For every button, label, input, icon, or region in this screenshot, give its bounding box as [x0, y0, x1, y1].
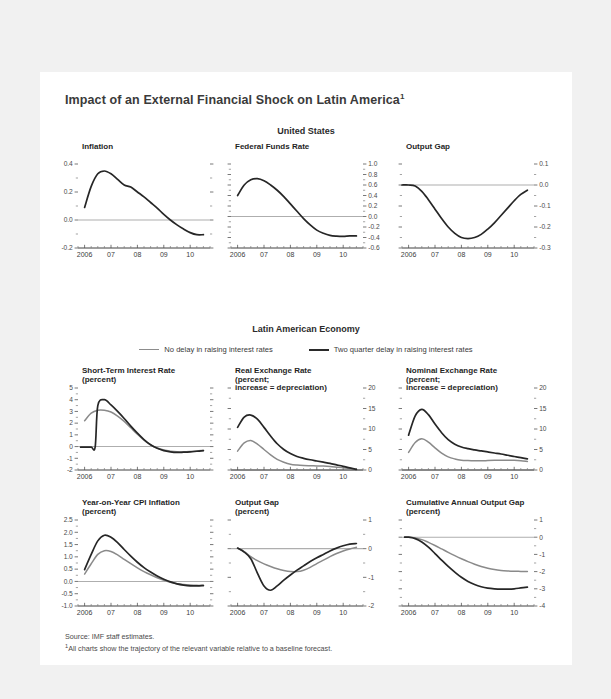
x-tick-label: 09	[484, 473, 492, 480]
y-tick-label: -1.0	[61, 602, 73, 609]
footnote-1: 1All charts show the trajectory of the r…	[65, 642, 332, 655]
x-tick-label: 09	[313, 473, 321, 480]
series-line	[85, 535, 204, 586]
y-tick-label: 1	[69, 431, 73, 438]
x-tick-label: 09	[484, 609, 492, 616]
y-tick-label: 20	[368, 384, 376, 391]
series-line	[405, 537, 528, 589]
chart-us-inflation: -0.20.00.20.4200607080910Inflation	[54, 140, 216, 264]
series-line	[402, 185, 527, 239]
x-tick-label: 07	[107, 609, 115, 616]
y-tick-label: 0	[539, 466, 543, 473]
y-tick-label: 1.0	[368, 160, 377, 167]
y-tick-label: 3	[69, 408, 73, 415]
x-tick-label: 09	[160, 473, 168, 480]
y-tick-label: 4	[69, 396, 73, 403]
x-tick-label: 2006	[401, 473, 417, 480]
series-line	[238, 179, 357, 237]
x-tick-label: 2006	[401, 251, 417, 258]
x-tick-label: 08	[458, 473, 466, 480]
x-tick-label: 10	[339, 251, 347, 258]
x-tick-label: 07	[260, 609, 268, 616]
x-tick-label: 07	[260, 251, 268, 258]
figure-card: Impact of an External Financial Shock on…	[40, 72, 572, 665]
y-tick-label: -0.4	[368, 234, 380, 241]
x-tick-label: 2006	[77, 251, 93, 258]
y-tick-label: -0.2	[61, 244, 73, 251]
chart-subtitle: (percent)	[406, 507, 441, 516]
y-tick-label: -0.5	[61, 590, 73, 597]
y-tick-label: 5	[69, 384, 73, 391]
x-tick-label: 08	[458, 609, 466, 616]
chart-subtitle: increase = depreciation)	[406, 383, 498, 392]
figure-title-superscript: 1	[400, 92, 405, 101]
x-tick-label: 09	[160, 609, 168, 616]
y-tick-label: 0.4	[64, 160, 73, 167]
y-tick-label: 1	[539, 516, 543, 523]
y-tick-label: -1	[539, 551, 545, 558]
y-tick-label: -2	[67, 466, 73, 473]
x-tick-label: 09	[313, 251, 321, 258]
x-tick-label: 10	[510, 609, 518, 616]
series-line	[409, 409, 528, 459]
y-tick-label: 0	[368, 466, 372, 473]
y-tick-label: 0.2	[64, 188, 73, 195]
x-tick-label: 08	[134, 251, 142, 258]
y-tick-label: -4	[539, 602, 545, 609]
y-tick-label: 20	[539, 384, 547, 391]
y-tick-label: 2.0	[64, 529, 73, 536]
y-tick-label: -0.2	[539, 223, 551, 230]
legend-label-no-delay: No delay in raising interest rates	[164, 345, 272, 354]
chart-us-output-gap: -0.3-0.2-0.10.00.1200607080910Output Gap	[396, 140, 558, 264]
y-tick-label: 5	[368, 446, 372, 453]
x-tick-label: 07	[431, 251, 439, 258]
x-tick-label: 07	[260, 473, 268, 480]
y-tick-label: 0	[539, 534, 543, 541]
x-tick-label: 2006	[230, 609, 246, 616]
y-tick-label: 0.1	[539, 160, 548, 167]
x-tick-label: 10	[339, 473, 347, 480]
figure-title-text: Impact of an External Financial Shock on…	[65, 93, 400, 107]
y-tick-label: 1.0	[64, 553, 73, 560]
x-tick-label: 09	[313, 609, 321, 616]
x-tick-label: 2006	[77, 609, 93, 616]
x-tick-label: 09	[484, 251, 492, 258]
chart-title: Inflation	[82, 142, 113, 151]
y-tick-label: 10	[539, 425, 547, 432]
source-note: Source: IMF staff estimates.	[65, 632, 332, 642]
series-line	[409, 439, 528, 462]
page-background: Impact of an External Financial Shock on…	[0, 0, 611, 699]
chart-subtitle: increase = depreciation)	[235, 383, 327, 392]
chart-title: Federal Funds Rate	[235, 142, 310, 151]
y-tick-label: 0.0	[539, 181, 548, 188]
x-tick-label: 10	[510, 473, 518, 480]
y-tick-label: 0.8	[368, 171, 377, 178]
y-tick-label: 15	[368, 405, 376, 412]
y-tick-label: 0	[368, 545, 372, 552]
x-tick-label: 08	[287, 609, 295, 616]
y-tick-label: 2.5	[64, 516, 73, 523]
chart-row-united-states: -0.20.00.20.4200607080910Inflation -0.6-…	[40, 140, 572, 270]
section-heading-latin-american-economy: Latin American Economy	[40, 324, 572, 334]
y-tick-label: -1	[368, 574, 374, 581]
y-tick-label: -0.6	[368, 244, 380, 251]
footnote-text: All charts show the trajectory of the re…	[68, 645, 332, 654]
x-tick-label: 08	[287, 473, 295, 480]
chart-subtitle: (percent)	[82, 375, 117, 384]
y-tick-label: 15	[539, 405, 547, 412]
x-tick-label: 08	[134, 473, 142, 480]
x-tick-label: 10	[186, 609, 194, 616]
y-tick-label: 0.0	[64, 216, 73, 223]
legend-line-icon-no-delay	[139, 349, 159, 350]
x-tick-label: 2006	[401, 609, 417, 616]
chart-subtitle: (percent)	[82, 507, 117, 516]
x-tick-label: 08	[458, 251, 466, 258]
chart-la-output-gap: -2-101200607080910Output Gap(percent)	[225, 496, 387, 622]
y-tick-label: 0.2	[368, 202, 377, 209]
chart-row-latin-america-2: -1.0-0.50.00.51.01.52.02.5200607080910Ye…	[40, 496, 572, 629]
chart-la-nominal-exchange-rate: 05101520200607080910Nominal Exchange Rat…	[396, 364, 558, 486]
x-tick-label: 2006	[230, 251, 246, 258]
y-tick-label: -2	[368, 602, 374, 609]
chart-subtitle: (percent)	[235, 507, 270, 516]
series-line	[85, 171, 204, 235]
